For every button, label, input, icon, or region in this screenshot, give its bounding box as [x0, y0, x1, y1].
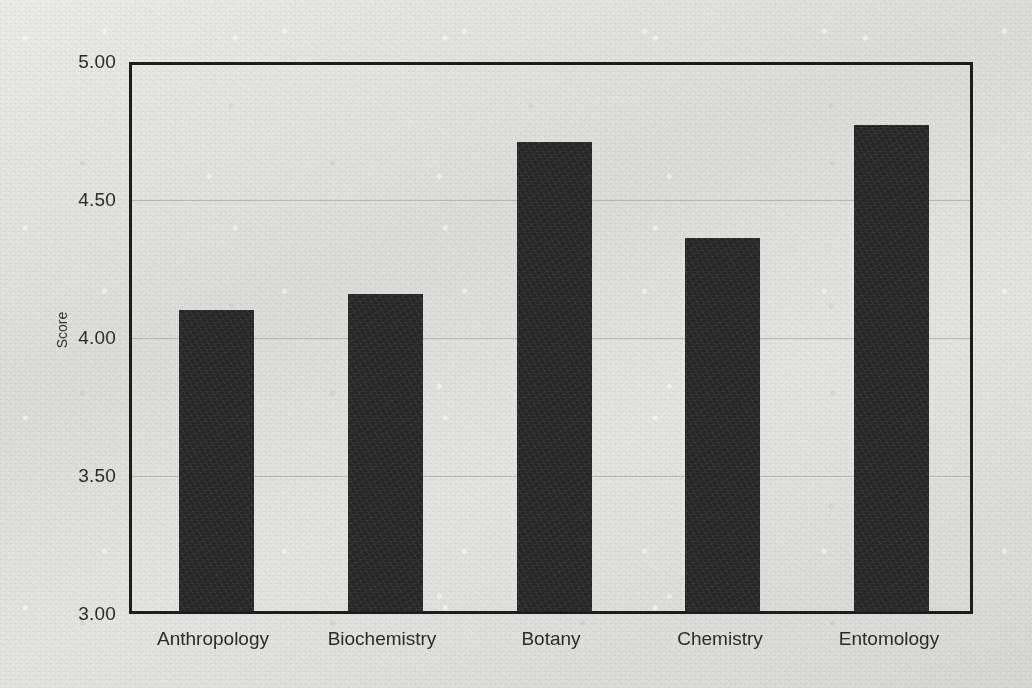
bars-layer — [132, 65, 970, 611]
y-tick-label: 4.50 — [78, 189, 116, 211]
x-tick-label-biochemistry: Biochemistry — [328, 628, 437, 650]
y-tick-label: 5.00 — [78, 51, 116, 73]
y-tick-label: 3.00 — [78, 603, 116, 625]
chart-figure: Score 5.00 4.50 4.00 3.50 3.00 Anthropol… — [0, 0, 1032, 688]
bar-biochemistry[interactable] — [348, 294, 423, 611]
bar-chemistry[interactable] — [685, 238, 760, 611]
x-tick-label-botany: Botany — [521, 628, 580, 650]
bar-entomology[interactable] — [854, 125, 929, 611]
x-tick-label-entomology: Entomology — [839, 628, 939, 650]
x-tick-label-anthropology: Anthropology — [157, 628, 269, 650]
plot-area — [129, 62, 973, 614]
bar-anthropology[interactable] — [179, 310, 254, 611]
y-tick-label: 3.50 — [78, 465, 116, 487]
y-axis-tick-labels: 5.00 4.50 4.00 3.50 3.00 — [0, 0, 116, 688]
x-tick-label-chemistry: Chemistry — [677, 628, 763, 650]
y-tick-label: 4.00 — [78, 327, 116, 349]
bar-botany[interactable] — [517, 142, 592, 611]
